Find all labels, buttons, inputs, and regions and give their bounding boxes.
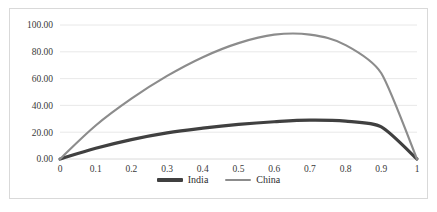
x-tick-label: 0.1 [90,164,102,174]
y-tick-label: 80.00 [32,47,54,57]
x-tick-label: 1 [415,164,420,174]
x-tick-label: 0.2 [125,164,137,174]
x-tick-label: 0.7 [304,164,316,174]
y-axis-tick-labels: 0.0020.0040.0060.0080.00100.00 [27,20,53,164]
gridlines [60,25,417,159]
y-tick-label: 0.00 [36,154,53,164]
x-tick-label: 0.5 [233,164,245,174]
x-tick-label: 0.9 [375,164,387,174]
legend-label-china: China [256,175,280,185]
x-tick-label: 0.3 [161,164,173,174]
x-tick-label: 0.4 [197,164,209,174]
y-tick-label: 100.00 [27,20,53,30]
legend-swatch-india [157,178,183,181]
x-tick-label: 0.6 [268,164,280,174]
plot-area: 0.0020.0040.0060.0080.00100.00 00.10.20.… [10,9,427,198]
legend-item-india[interactable]: India [157,175,209,185]
chart-legend: India China [10,175,427,185]
y-tick-label: 40.00 [32,101,54,111]
legend-label-india: India [188,175,209,185]
line-chart-svg: 0.0020.0040.0060.0080.00100.00 00.10.20.… [10,9,427,198]
x-tick-label: 0 [58,164,63,174]
series-line-china [60,33,417,159]
y-tick-label: 20.00 [32,128,54,138]
y-tick-label: 60.00 [32,74,54,84]
x-tick-label: 0.8 [340,164,352,174]
series-line-india [60,120,417,159]
legend-swatch-china [225,179,251,181]
data-series [60,33,417,159]
x-axis-tick-labels: 00.10.20.30.40.50.60.70.80.91 [58,164,420,174]
chart-card: 0.0020.0040.0060.0080.00100.00 00.10.20.… [9,8,428,199]
legend-item-china[interactable]: China [225,175,280,185]
